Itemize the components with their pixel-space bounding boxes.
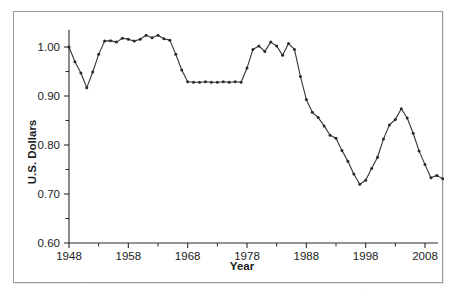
- data-point: [287, 42, 290, 45]
- y-tick-label: 0.80: [38, 139, 60, 151]
- data-point: [91, 70, 94, 73]
- data-point: [68, 46, 71, 49]
- data-point: [115, 41, 118, 44]
- data-point: [329, 134, 332, 137]
- x-tick-label: 1988: [294, 250, 320, 262]
- data-point: [435, 174, 438, 177]
- data-point: [97, 53, 100, 56]
- data-point: [85, 86, 88, 89]
- data-point: [269, 41, 272, 44]
- data-series: [68, 34, 445, 227]
- data-point: [162, 37, 165, 40]
- data-point: [174, 53, 177, 56]
- data-point: [192, 81, 195, 84]
- data-point: [281, 54, 284, 57]
- data-point: [424, 163, 427, 166]
- data-point: [418, 149, 421, 152]
- x-tick-label: 2008: [412, 250, 438, 262]
- data-point: [133, 40, 136, 43]
- data-point: [204, 80, 207, 83]
- data-point: [257, 45, 260, 48]
- data-point: [305, 98, 308, 101]
- figure-page: 0.600.700.800.901.0019481958196819781988…: [0, 0, 465, 299]
- data-point: [388, 123, 391, 126]
- data-point: [121, 37, 124, 40]
- line-chart[interactable]: 0.600.700.800.901.0019481958196819781988…: [14, 12, 444, 284]
- y-tick-label: 0.70: [38, 188, 60, 200]
- data-point: [216, 81, 219, 84]
- series-line-us-dollars: [69, 35, 444, 225]
- data-point: [157, 34, 160, 37]
- chart-figure-frame: 0.600.700.800.901.0019481958196819781988…: [13, 11, 443, 283]
- data-point: [317, 116, 320, 119]
- data-point: [109, 39, 112, 42]
- data-point: [79, 71, 82, 74]
- data-point: [293, 48, 296, 51]
- data-point: [145, 34, 148, 37]
- data-point: [335, 137, 338, 140]
- data-point: [127, 38, 130, 41]
- x-tick-label: 1998: [353, 250, 379, 262]
- data-point: [151, 36, 154, 39]
- data-point: [370, 167, 373, 170]
- tick-labels: 0.600.700.800.901.0019481958196819781988…: [38, 41, 438, 262]
- y-tick-label: 0.60: [38, 237, 60, 249]
- data-point: [376, 156, 379, 159]
- data-point: [103, 40, 106, 43]
- data-point: [222, 80, 225, 83]
- data-point: [246, 67, 249, 70]
- x-tick-label: 1968: [175, 250, 201, 262]
- data-point: [340, 149, 343, 152]
- data-point: [364, 179, 367, 182]
- data-point: [263, 50, 266, 53]
- data-point: [352, 172, 355, 175]
- data-point: [311, 111, 314, 114]
- data-point: [412, 132, 415, 135]
- y-tick-label: 0.90: [38, 90, 60, 102]
- data-point: [186, 80, 189, 83]
- data-point: [400, 107, 403, 110]
- data-point: [358, 183, 361, 186]
- data-point: [346, 160, 349, 163]
- data-point: [198, 81, 201, 84]
- x-tick-label: 1948: [56, 250, 82, 262]
- data-point: [429, 176, 432, 179]
- data-point: [210, 81, 213, 84]
- x-tick-label: 1958: [116, 250, 142, 262]
- data-point: [251, 48, 254, 51]
- data-point: [234, 80, 237, 83]
- data-point: [394, 118, 397, 121]
- data-point: [406, 117, 409, 120]
- axes: [64, 30, 438, 248]
- data-point: [240, 81, 243, 84]
- data-point: [139, 38, 142, 41]
- data-point: [73, 60, 76, 63]
- data-point: [180, 69, 183, 72]
- data-point: [275, 45, 278, 48]
- y-tick-label: 1.00: [38, 41, 60, 53]
- data-point: [168, 39, 171, 42]
- data-point: [299, 75, 302, 78]
- data-point: [228, 81, 231, 84]
- data-point: [382, 138, 385, 141]
- y-axis-title: U.S. Dollars: [26, 120, 38, 185]
- data-point: [323, 124, 326, 127]
- x-axis-title: Year: [230, 260, 255, 272]
